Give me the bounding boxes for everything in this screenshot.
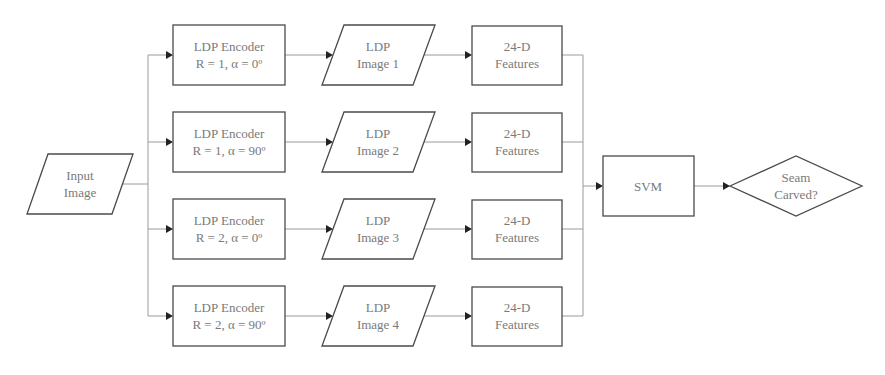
ldp-image-3-shape (322, 199, 435, 259)
seam-carved-decision-node: Seam Carved? (730, 156, 862, 216)
features-2-label-line2: Features (495, 143, 539, 158)
ldp-encoder-2-title: LDP Encoder (194, 126, 265, 141)
pipeline-row-4: LDP Encoder R = 2, α = 90º LDP Image 4 2… (173, 286, 562, 346)
decision-label-line2: Carved? (774, 187, 818, 202)
arrowhead-icon (166, 138, 173, 146)
arrowhead-icon (465, 138, 472, 146)
ldp-encoder-3-box (173, 199, 285, 259)
arrowhead-icon (166, 312, 173, 320)
ldp-encoder-1-title: LDP Encoder (194, 39, 265, 54)
arrowhead-icon (465, 225, 472, 233)
input-image-label-line1: Input (66, 168, 94, 183)
pipeline-row-3: LDP Encoder R = 2, α = 0º LDP Image 3 24… (173, 199, 562, 259)
ldp-encoder-2-box (173, 112, 285, 172)
arrowhead-icon (166, 225, 173, 233)
arrowhead-icon (465, 51, 472, 59)
ldp-encoder-4-box (173, 286, 285, 346)
ldp-image-4-label-line1: LDP (366, 300, 391, 315)
features-4-label-line2: Features (495, 317, 539, 332)
arrowhead-icon (465, 312, 472, 320)
pipeline-row-2: LDP Encoder R = 1, α = 90º LDP Image 2 2… (173, 112, 562, 172)
ldp-image-1-shape (322, 25, 435, 85)
decision-diamond-shape (730, 156, 862, 216)
svm-node: SVM (603, 156, 694, 216)
ldp-image-1-label-line1: LDP (366, 39, 391, 54)
ldp-encoder-4-params: R = 2, α = 90º (192, 317, 265, 332)
ldp-image-2-label-line2: Image 2 (357, 143, 399, 158)
features-2-label-line1: 24-D (504, 126, 531, 141)
ldp-image-1-label-line2: Image 1 (357, 56, 399, 71)
seam-carving-detection-flowchart: Input Image LDP Encoder R = 1, α = 0º LD… (0, 0, 885, 375)
features-1-label-line1: 24-D (504, 39, 531, 54)
features-4-label-line1: 24-D (504, 300, 531, 315)
ldp-encoder-3-title: LDP Encoder (194, 213, 265, 228)
features-3-label-line2: Features (495, 230, 539, 245)
ldp-image-3-label-line1: LDP (366, 213, 391, 228)
input-image-label-line2: Image (64, 185, 97, 200)
input-image-shape (27, 154, 133, 214)
ldp-image-4-label-line2: Image 4 (357, 317, 400, 332)
ldp-image-2-label-line1: LDP (366, 126, 391, 141)
arrowhead-icon (596, 182, 603, 190)
ldp-encoder-4-title: LDP Encoder (194, 300, 265, 315)
ldp-encoder-1-box (173, 25, 285, 85)
features-3-label-line1: 24-D (504, 213, 531, 228)
ldp-encoder-1-params: R = 1, α = 0º (196, 56, 263, 71)
svm-label: SVM (634, 179, 663, 194)
ldp-encoder-3-params: R = 2, α = 0º (196, 230, 263, 245)
input-image-node: Input Image (27, 154, 133, 214)
decision-label-line1: Seam (782, 170, 811, 185)
ldp-encoder-2-params: R = 1, α = 90º (192, 143, 265, 158)
pipeline-row-1: LDP Encoder R = 1, α = 0º LDP Image 1 24… (173, 25, 562, 85)
features-1-label-line2: Features (495, 56, 539, 71)
ldp-image-4-shape (322, 286, 435, 346)
ldp-image-2-shape (322, 112, 435, 172)
ldp-image-3-label-line2: Image 3 (357, 230, 399, 245)
arrowhead-icon (166, 51, 173, 59)
